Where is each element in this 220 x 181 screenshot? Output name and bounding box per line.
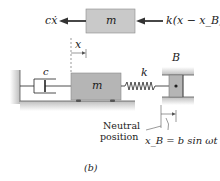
left-wall [10, 70, 20, 104]
diagram-graphics [0, 0, 220, 181]
damper-label: c [43, 66, 49, 77]
spring-force-arrow-icon [136, 18, 163, 25]
damper-icon [20, 79, 71, 93]
neutral-label-line1: Neutral [103, 120, 140, 131]
damping-force-label: cẋ [45, 14, 57, 27]
mass-label: m [92, 79, 102, 92]
support-label: B [172, 51, 180, 64]
floor [20, 101, 135, 111]
diagram-root: cẋ m k(x − x_B) x c m k B Neutral positi… [0, 0, 220, 181]
spring-label: k [141, 66, 148, 79]
neutral-label-line2: position [100, 131, 138, 142]
neutral-position-marker [146, 105, 176, 130]
figure-caption: (b) [84, 162, 98, 173]
displacement-label: x [75, 38, 81, 51]
fbd-mass-label: m [106, 14, 116, 27]
damping-force-arrow-icon [59, 18, 86, 25]
spring-icon [121, 82, 172, 90]
spring-force-label: k(x − x_B) [166, 14, 220, 27]
support-motion-equation: x_B = b sin ωt [145, 135, 217, 146]
